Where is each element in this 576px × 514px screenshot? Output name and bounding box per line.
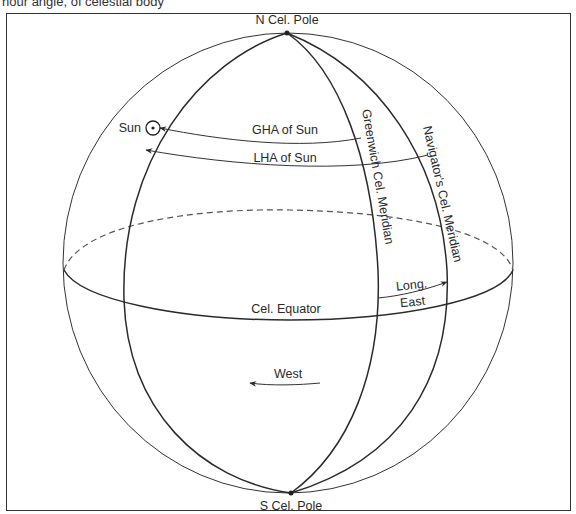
sun-symbol-icon [146,121,160,135]
south-pole-label: S Cel. Pole [260,499,323,513]
sphere-outline [63,33,513,493]
navigator-meridian-label: Navigator's Cel. Meridian [420,125,465,264]
greenwich-meridian-line [287,33,378,493]
longitude-label: Long. [395,276,428,293]
lha-label: LHA of Sun [253,151,316,165]
celestial-sphere-diagram: N Cel. Pole S Cel. Pole Sun GHA of Sun L… [0,0,576,514]
east-label: East [399,294,426,311]
north-pole-dot [285,31,290,36]
north-pole-label: N Cel. Pole [255,13,318,27]
gha-label: GHA of Sun [252,123,318,137]
west-label: West [274,367,303,381]
greenwich-meridian-label: Greenwich Cel. Meridian [359,108,397,245]
navigator-meridian-line [287,33,447,493]
sun-label: Sun [119,121,141,135]
equator-label: Cel. Equator [251,302,320,316]
sun-hour-circle [124,33,291,493]
west-arrow [250,383,320,385]
south-pole-dot [289,491,294,496]
